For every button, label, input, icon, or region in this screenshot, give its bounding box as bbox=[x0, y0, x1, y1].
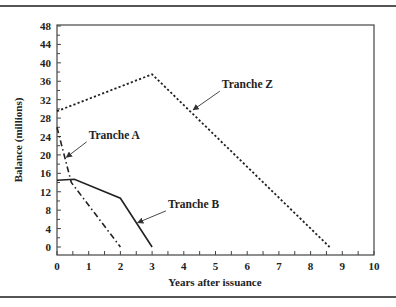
x-tick-label: 8 bbox=[308, 260, 314, 272]
y-tick-label: 32 bbox=[40, 94, 52, 106]
x-axis: 012345678910 bbox=[54, 251, 380, 272]
y-tick-label: 28 bbox=[40, 112, 52, 124]
x-tick-label: 10 bbox=[369, 260, 381, 272]
chart: 04812162024283236404448 012345678910 Tra… bbox=[0, 0, 396, 307]
x-axis-title: Years after issuance bbox=[168, 276, 261, 288]
y-tick-label: 12 bbox=[40, 186, 52, 198]
x-tick-label: 6 bbox=[244, 260, 250, 272]
y-axis-title: Balance (millions) bbox=[12, 97, 25, 182]
y-tick-label: 8 bbox=[46, 204, 52, 216]
label-tranche-a: Tranche A bbox=[89, 129, 141, 141]
label-tranche-z: Tranche Z bbox=[222, 78, 274, 90]
x-tick-label: 9 bbox=[340, 260, 346, 272]
y-tick-label: 4 bbox=[46, 223, 52, 235]
x-tick-label: 5 bbox=[213, 260, 219, 272]
arrow-icon bbox=[67, 142, 87, 157]
y-tick-label: 24 bbox=[40, 131, 52, 143]
x-tick-label: 4 bbox=[181, 260, 187, 272]
arrow-icon bbox=[138, 211, 166, 223]
label-tranche-b: Tranche B bbox=[168, 198, 220, 210]
arrow-icon bbox=[193, 91, 220, 110]
y-tick-label: 48 bbox=[40, 20, 52, 32]
y-tick-label: 44 bbox=[40, 38, 52, 50]
series-tranche-b bbox=[57, 179, 152, 247]
x-tick-label: 2 bbox=[118, 260, 124, 272]
y-tick-label: 16 bbox=[40, 167, 52, 179]
y-tick-label: 36 bbox=[40, 75, 52, 87]
x-tick-label: 0 bbox=[54, 260, 60, 272]
series-labels: Tranche ATranche BTranche Z bbox=[67, 78, 274, 222]
series-tranche-a bbox=[57, 127, 120, 247]
y-tick-label: 20 bbox=[40, 149, 52, 161]
series-tranche-z bbox=[57, 74, 330, 247]
y-tick-label: 40 bbox=[40, 57, 52, 69]
y-tick-label: 0 bbox=[46, 241, 52, 253]
series-layer bbox=[57, 74, 330, 247]
x-tick-label: 3 bbox=[149, 260, 155, 272]
x-tick-label: 7 bbox=[276, 260, 282, 272]
y-axis: 04812162024283236404448 bbox=[40, 20, 61, 253]
x-tick-label: 1 bbox=[86, 260, 92, 272]
